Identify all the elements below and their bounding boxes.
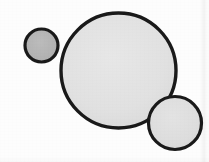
small-circle[interactable] <box>25 29 58 62</box>
circles-diagram <box>0 0 209 162</box>
figure-canvas <box>0 0 209 162</box>
medium-circle[interactable] <box>149 97 202 150</box>
